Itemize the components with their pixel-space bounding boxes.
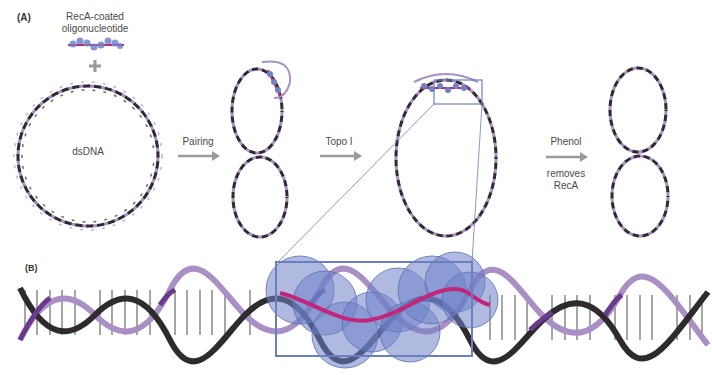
final-dna-figure8-icon [610, 68, 668, 236]
pairing-arrow-icon [178, 151, 220, 161]
reca-protein-cluster-icon [266, 252, 498, 368]
phenol-arrow-icon [546, 152, 588, 162]
topo-arrow-icon [320, 151, 362, 161]
diagram-canvas [0, 0, 712, 375]
paired-dna-icon [232, 61, 290, 237]
topo-dna-circle-icon [278, 74, 496, 262]
dsdna-circle-icon [14, 82, 162, 230]
plus-icon [89, 60, 101, 72]
reca-oligo-icon [68, 38, 124, 51]
